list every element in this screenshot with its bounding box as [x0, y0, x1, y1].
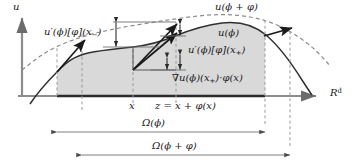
horizontal-axis-label: Rd — [330, 88, 342, 98]
right-increment-point: (x — [226, 44, 236, 55]
arrow-right-shift — [264, 28, 292, 36]
solid-curve-label: u(ϕ) — [218, 28, 239, 38]
right-increment-arg: (ϕ) — [197, 44, 212, 55]
left-increment-arg: (ϕ) — [53, 26, 68, 37]
omega-phi-perturbed-label: Ω(ϕ + φ) — [152, 141, 197, 151]
gradient-point: (x — [200, 72, 210, 83]
shape-derivative-figure: u Rd u(ϕ + φ) u(ϕ) u′(ϕ)[φ](x−) u′(ϕ)[φ]… — [0, 0, 363, 165]
right-increment-bracket: [φ] — [211, 44, 226, 55]
gradient-arg: (ϕ) — [185, 72, 200, 83]
gradient-label: ∇u(ϕ)(x+)·φ(x) — [172, 73, 243, 85]
right-increment-label: u′(ϕ)[φ](x+) — [188, 45, 245, 57]
gradient-perturb: φ(x) — [222, 72, 242, 83]
left-increment-point: (x — [82, 26, 92, 37]
left-increment-point-close: ) — [97, 26, 101, 37]
tick-label-x: x — [129, 101, 135, 111]
omega-phi-label: Ω(ϕ) — [142, 118, 165, 128]
dashed-curve-label: u(ϕ + φ) — [215, 2, 258, 12]
tick-label-z: z = x + φ(x) — [155, 101, 216, 111]
horizontal-axis-label-exponent: d — [338, 87, 342, 95]
left-increment-label: u′(ϕ)[φ](x−) — [44, 27, 101, 39]
left-increment-bracket: [φ] — [67, 26, 82, 37]
horizontal-axis-label-base: R — [330, 87, 338, 98]
gradient-nabla: ∇u — [172, 72, 185, 83]
right-increment-point-close: ) — [241, 44, 245, 55]
vertical-axis-label: u — [13, 2, 19, 12]
